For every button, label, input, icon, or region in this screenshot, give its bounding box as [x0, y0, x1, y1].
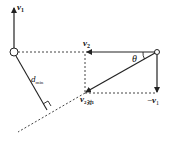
object-1-circle — [10, 48, 18, 56]
relative-velocity-diagram: v1 v2 θ −v1 v2对1 dmin — [0, 0, 173, 144]
dmin-label: dmin — [31, 74, 44, 85]
relative-path-dotted-line — [18, 93, 85, 132]
v1-label: v1 — [17, 2, 24, 13]
v2-label: v2 — [83, 38, 90, 49]
theta-label: θ — [132, 53, 137, 64]
v21-label: v2对1 — [80, 94, 95, 106]
object-2-circle — [155, 50, 160, 55]
theta-arc — [143, 52, 145, 59]
neg-v1-label: −v1 — [147, 95, 159, 106]
